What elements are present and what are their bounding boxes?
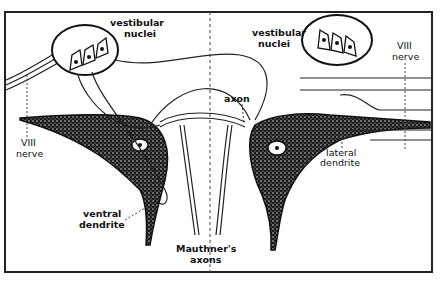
label-ventral-dendrite: ventral dendrite [79,208,145,230]
svg-text:dendrite: dendrite [320,157,360,168]
svg-text:axons: axons [190,254,222,265]
mauthner-axons-crossing [160,113,245,235]
svg-text:vestibular: vestibular [252,27,306,38]
svg-text:VIII: VIII [397,40,412,51]
svg-text:ventral: ventral [83,208,121,219]
label-vestibular-nuclei-left: vestibular nuclei [110,17,164,39]
svg-text:Mauthner's: Mauthner's [176,243,237,254]
svg-text:VIII: VIII [21,137,36,148]
svg-text:vestibular: vestibular [110,17,164,28]
label-mauthners-axons: Mauthner's axons [176,243,237,265]
svg-text:nuclei: nuclei [258,38,290,49]
label-vestibular-nuclei-right: vestibular nuclei [252,27,306,49]
label-viii-nerve-right: VIII nerve [392,40,419,150]
svg-text:nerve: nerve [392,51,419,62]
svg-text:nerve: nerve [16,148,43,159]
mauthner-cell-diagram: vestibular nuclei vestibular nuclei VIII… [0,0,440,282]
mauthner-cell-right [250,114,430,250]
vestibular-nuclei-left [52,25,118,75]
svg-text:axon: axon [224,93,250,104]
vestibular-nuclei-right [302,15,372,65]
svg-text:dendrite: dendrite [79,219,125,230]
svg-text:nuclei: nuclei [124,28,156,39]
